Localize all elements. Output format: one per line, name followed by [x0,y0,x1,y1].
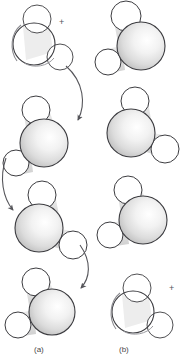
water-molecule-b2 [107,87,179,163]
oxygen-sphere-b2 [107,109,155,157]
hydrogen-sphere-a3-2 [59,231,87,259]
rotation-arrow-a1-a2 [66,66,82,120]
oxygen-sphere-a4 [29,289,75,335]
oxygen-sphere-a2 [20,119,68,167]
water-molecule-b1 [95,1,165,75]
oxygen-sphere-b1 [117,22,165,70]
hydrogen-sphere-b1-2 [95,49,121,75]
oxygen-sphere-b3 [119,196,167,244]
panel-a [2,5,88,338]
water-molecule-b4 [111,274,173,338]
hydrogen-sphere-b4-2 [147,312,173,338]
figure-canvas [0,0,186,359]
water-molecule-b3 [97,176,167,248]
hydrogen-sphere-b3-2 [97,222,123,248]
water-molecule-a4 [5,268,75,338]
water-molecule-a1 [12,5,73,70]
panel-b [95,1,179,338]
hydrogen-sphere-a1-1 [23,5,51,33]
water-molecule-a3 [15,181,87,259]
hydrogen-sphere-b4-1 [123,274,151,302]
oxygen-sphere-a3 [15,204,63,252]
hydrogen-sphere-b2-2 [151,135,179,163]
hydrogen-sphere-a4-2 [5,312,31,338]
panel-label-a: (a) [34,345,44,354]
water-molecule-a2 [3,96,68,176]
plus-sign-panel-a: + [59,18,64,27]
panel-label-b: (b) [119,345,129,354]
molecular-rotation-figure: + + (a) (b) [0,0,186,359]
plus-sign-panel-b: + [169,284,174,293]
